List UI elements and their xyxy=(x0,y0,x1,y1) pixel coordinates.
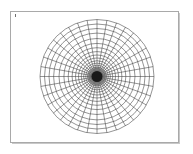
center-core-group xyxy=(88,67,107,86)
figure-canvas xyxy=(0,0,193,154)
center-core xyxy=(92,71,103,82)
polar-grid-mesh xyxy=(0,0,193,154)
